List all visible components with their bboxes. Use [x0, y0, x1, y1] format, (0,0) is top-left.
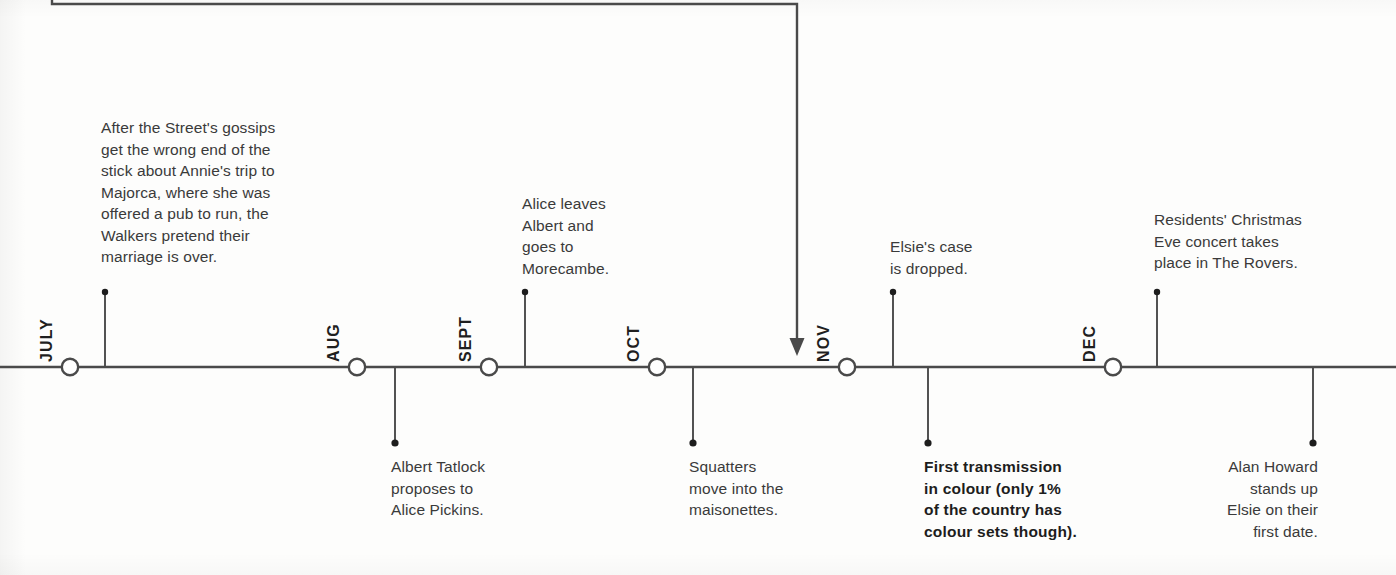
- event-dot-residents-christmas-concert: [1154, 289, 1160, 295]
- event-note-squatters-maisonettes: Squatters move into the maisonettes.: [689, 456, 869, 521]
- month-label-nov: NOV: [815, 324, 833, 362]
- month-label-oct: OCT: [625, 325, 643, 362]
- event-note-walkers-marriage: After the Street's gossips get the wrong…: [101, 117, 341, 268]
- month-marker-aug[interactable]: [349, 359, 365, 375]
- month-label-aug: AUG: [325, 323, 343, 362]
- connector-arrowhead: [790, 338, 805, 356]
- event-dot-albert-proposes: [391, 439, 398, 446]
- month-marker-dec[interactable]: [1105, 359, 1121, 375]
- event-note-albert-proposes: Albert Tatlock proposes to Alice Pickins…: [391, 456, 571, 521]
- month-label-sept: SEPT: [457, 316, 475, 362]
- month-marker-july[interactable]: [62, 359, 78, 375]
- event-note-elsie-case-dropped: Elsie's case is dropped.: [890, 236, 1050, 279]
- event-dot-first-colour-transmission: [924, 439, 931, 446]
- month-marker-oct[interactable]: [649, 359, 665, 375]
- event-note-alice-leaves-albert: Alice leaves Albert and goes to Morecamb…: [522, 193, 672, 279]
- event-dot-walkers-marriage: [102, 289, 108, 295]
- month-marker-nov[interactable]: [839, 359, 855, 375]
- month-label-july: JULY: [38, 318, 56, 362]
- timeline-infographic: JULYAUGSEPTOCTNOVDEC After the Street's …: [0, 0, 1396, 575]
- month-label-dec: DEC: [1081, 325, 1099, 362]
- event-note-residents-christmas-concert: Residents' Christmas Eve concert takes p…: [1154, 209, 1369, 274]
- event-dot-elsie-case-dropped: [890, 289, 896, 295]
- event-note-first-colour-transmission: First transmission in colour (only 1% of…: [924, 456, 1114, 542]
- month-marker-sept[interactable]: [481, 359, 497, 375]
- event-note-alan-howard-stands-up-elsie: Alan Howard stands up Elsie on their fir…: [1158, 456, 1318, 542]
- event-dot-squatters-maisonettes: [689, 439, 696, 446]
- event-stems-below: [391, 367, 1316, 447]
- event-dot-alice-leaves-albert: [522, 289, 528, 295]
- event-dot-alan-howard-stands-up-elsie: [1309, 439, 1316, 446]
